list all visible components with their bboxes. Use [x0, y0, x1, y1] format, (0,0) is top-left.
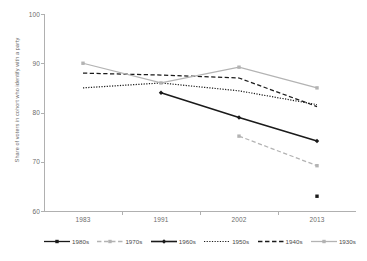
series-1950s [83, 83, 317, 105]
legend-swatch-1970s [97, 237, 123, 246]
legend-item-1940s[interactable]: 1940s [258, 237, 303, 246]
legend-label: 1980s [72, 238, 89, 245]
data-point-1970s [237, 134, 240, 137]
legend-swatch-1960s [151, 237, 177, 246]
legend-item-1970s[interactable]: 1970s [97, 237, 142, 246]
legend-label: 1940s [286, 238, 303, 245]
data-point-1930s [159, 81, 162, 84]
series-line-1950s [83, 83, 317, 105]
legend-marker-1970s [109, 239, 112, 242]
data-point-1960s [315, 139, 319, 143]
series-line-1930s [83, 63, 317, 88]
legend-marker-1930s [322, 239, 325, 242]
legend-marker-1980s [55, 239, 58, 242]
legend-swatch-1950s [204, 237, 230, 246]
legend-label: 1950s [232, 238, 249, 245]
series-1980s [315, 195, 318, 198]
series-1970s [237, 134, 318, 167]
series-line-1970s [239, 136, 317, 166]
legend-label: 1960s [179, 238, 196, 245]
data-point-1960s [159, 91, 163, 95]
data-point-1930s [237, 65, 240, 68]
legend-marker-1960s [162, 239, 166, 243]
series-layer [0, 0, 367, 261]
series-1930s [81, 62, 318, 90]
legend-swatch-1980s [44, 237, 70, 246]
legend-item-1930s[interactable]: 1930s [311, 237, 356, 246]
data-point-1980s [315, 195, 318, 198]
legend-label: 1930s [339, 238, 356, 245]
legend-swatch-1940s [258, 237, 284, 246]
legend-item-1950s[interactable]: 1950s [204, 237, 249, 246]
chart-legend: 1980s1970s1960s1950s1940s1930s [44, 234, 356, 248]
data-point-1930s [315, 86, 318, 89]
data-point-1930s [81, 62, 84, 65]
legend-item-1980s[interactable]: 1980s [44, 237, 89, 246]
data-point-1960s [237, 115, 241, 119]
data-point-1970s [315, 164, 318, 167]
legend-swatch-1930s [311, 237, 337, 246]
line-chart: Share of voters in cohort who identify w… [0, 0, 367, 261]
legend-item-1960s[interactable]: 1960s [151, 237, 196, 246]
legend-label: 1970s [125, 238, 142, 245]
